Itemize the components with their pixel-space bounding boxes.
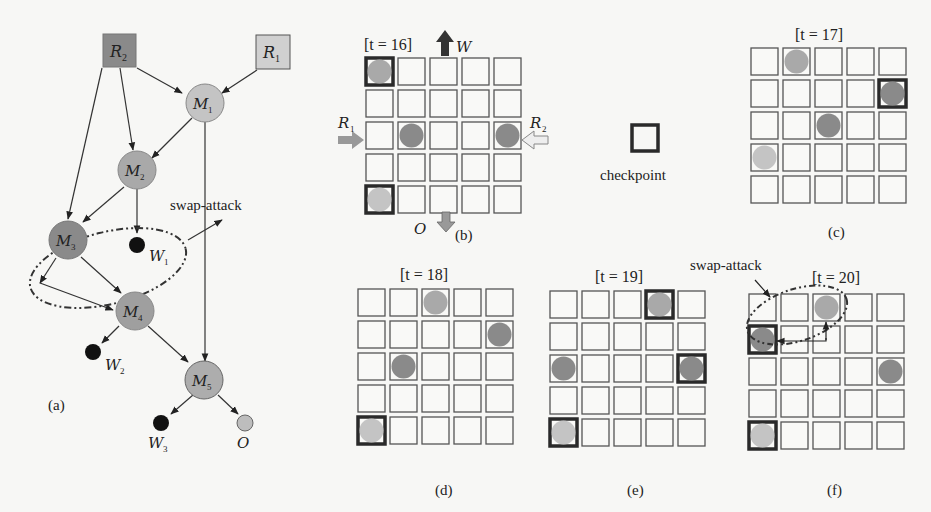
reservoir-r2-port-sub: 2: [542, 124, 547, 134]
output-port-arrow: [437, 212, 455, 232]
reservoir-r2: R2: [103, 34, 136, 67]
checkpoint-label: checkpoint: [600, 167, 667, 183]
droplet: [400, 124, 424, 148]
time-label: [t = 17]: [795, 26, 843, 43]
svg-text:3: 3: [163, 444, 168, 454]
svg-text:1: 1: [275, 53, 280, 64]
grid-cell: [494, 90, 521, 117]
grid-cell: [783, 80, 810, 107]
reservoir-r2-port-label: R: [529, 114, 541, 132]
grid-cell: [877, 422, 904, 449]
grid-cell: [454, 353, 481, 380]
grid-cell: [813, 358, 840, 385]
checkpoint-legend: checkpoint: [600, 125, 667, 183]
droplet: [368, 188, 392, 212]
grid-cell: [781, 422, 808, 449]
grid-cell: [430, 122, 457, 149]
reservoir-r1-port-label: R: [337, 114, 349, 132]
grid-cell: [390, 417, 417, 444]
grid-cell: [813, 390, 840, 417]
grid-cell: [390, 289, 417, 316]
swap-attack-region: [22, 214, 195, 323]
time-label: [t = 20]: [812, 269, 860, 286]
reservoir-r1-port-sub: 1: [350, 124, 355, 134]
sequencing-graph: swap-attack R2 R1 M1 M2 M3 M4 M5: [22, 34, 290, 454]
grid-cell: [646, 323, 673, 350]
grid-panel-d: [t = 18](d): [358, 266, 513, 499]
grid-cell: [783, 176, 810, 203]
grid-cell: [550, 323, 577, 350]
grid-cell: [781, 294, 808, 321]
grid-cell: [430, 90, 457, 117]
grid-cell: [749, 294, 776, 321]
grid-cell: [366, 90, 393, 117]
grid-cell: [494, 154, 521, 181]
grid-cell: [845, 326, 872, 353]
grid-cell: [462, 122, 489, 149]
grid-cell: [582, 419, 609, 446]
grid-cell: [845, 358, 872, 385]
grid-cell: [494, 58, 521, 85]
time-label: [t = 16]: [364, 36, 412, 53]
svg-text:3: 3: [71, 242, 76, 252]
grid-cell: [462, 186, 489, 213]
time-label: [t = 19]: [595, 268, 643, 285]
droplet: [392, 355, 416, 379]
grid-cell: [614, 387, 641, 414]
grid-cell: [847, 176, 874, 203]
grid-cell: [390, 321, 417, 348]
grid-cell: [879, 112, 906, 139]
grid-cell: [879, 48, 906, 75]
svg-text:M: M: [191, 372, 208, 390]
swap-attack-label: swap-attack: [170, 197, 242, 213]
panel-a-caption: (a): [48, 397, 65, 414]
edge-m5-o: [218, 395, 238, 414]
checkpoint-icon: [632, 125, 658, 151]
grid-cell: [614, 323, 641, 350]
panel-caption: (f): [827, 482, 842, 499]
grid-cell: [845, 422, 872, 449]
grid-cell: [751, 112, 778, 139]
grid-cell: [646, 387, 673, 414]
edge-r2-m2: [120, 68, 133, 150]
grid-cell: [398, 186, 425, 213]
grid-cell: [398, 154, 425, 181]
grid-cell: [783, 144, 810, 171]
grid-cell: [582, 323, 609, 350]
grid-cell: [781, 326, 808, 353]
waste-w1: W1: [129, 237, 169, 267]
svg-text:R: R: [109, 42, 122, 61]
grid-cell: [678, 387, 705, 414]
mixer-m5: M5: [185, 361, 223, 399]
grid-cell: [454, 321, 481, 348]
grid-cell: [614, 419, 641, 446]
droplet: [424, 291, 448, 315]
grid-cell: [847, 48, 874, 75]
grid-cell: [486, 385, 513, 412]
grid-cell: [422, 417, 449, 444]
droplet: [648, 293, 672, 317]
droplet: [753, 146, 777, 170]
svg-text:2: 2: [120, 366, 125, 376]
grid-cell: [813, 422, 840, 449]
grid-cell: [877, 390, 904, 417]
edge-m3-m4: [81, 257, 121, 293]
svg-text:4: 4: [138, 313, 143, 323]
grid-cell: [781, 358, 808, 385]
svg-text:1: 1: [208, 105, 213, 115]
svg-text:R: R: [262, 43, 275, 62]
edge-m4-w2: [102, 326, 119, 343]
droplet: [552, 357, 576, 381]
panel-caption: (c): [828, 224, 845, 241]
grid-cell: [678, 323, 705, 350]
grid-cell: [646, 419, 673, 446]
grid-cell: [582, 387, 609, 414]
grid-cell: [454, 385, 481, 412]
grid-cell: [454, 289, 481, 316]
grid-cell: [815, 80, 842, 107]
grid-cell: [358, 289, 385, 316]
grid-cell: [845, 390, 872, 417]
droplet: [881, 82, 905, 106]
grid-cell: [678, 291, 705, 318]
svg-text:O: O: [237, 434, 249, 452]
